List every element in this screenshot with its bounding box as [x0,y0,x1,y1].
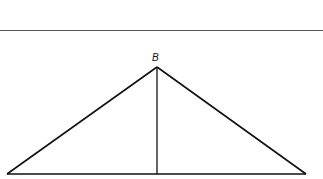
side-right [157,67,306,174]
vertex-label-b: B [152,53,159,63]
side-left [7,67,157,174]
triangle-diagram [0,0,323,179]
